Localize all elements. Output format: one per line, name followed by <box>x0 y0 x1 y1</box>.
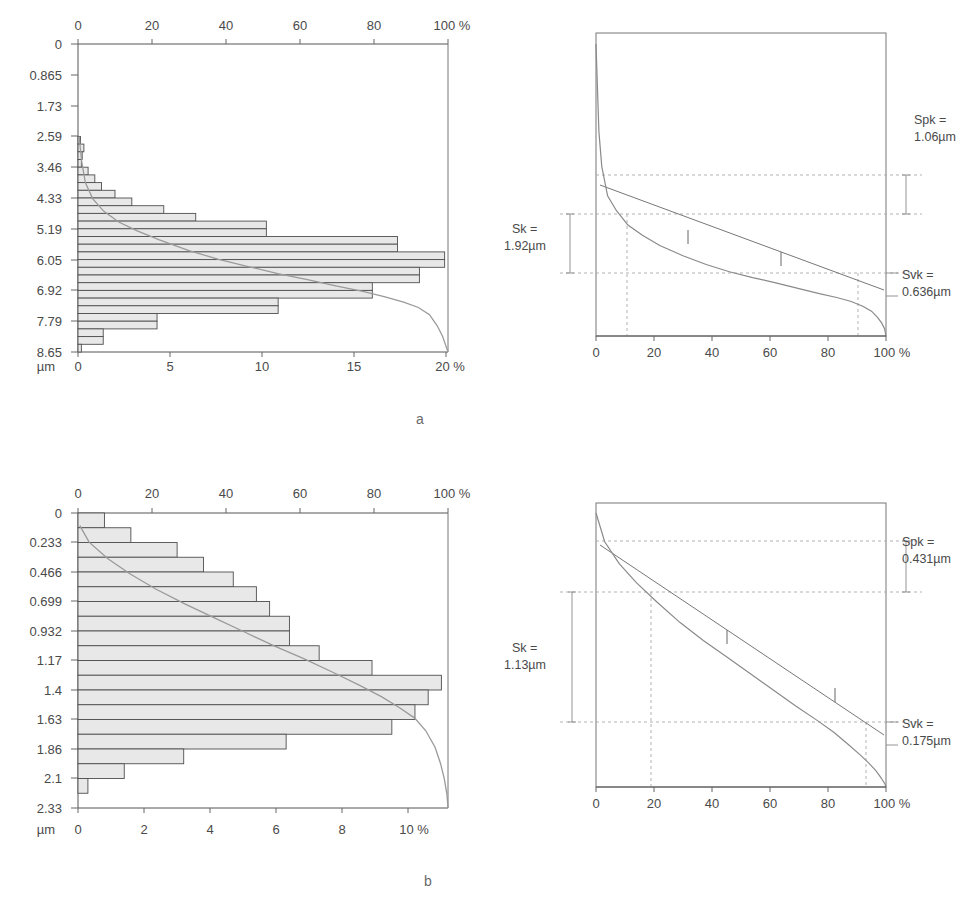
hist-a-y-tick-0: 0 <box>55 37 62 52</box>
abbott-a-frame <box>596 33 886 336</box>
abbott-b-frame <box>596 503 886 787</box>
histogram-bar <box>78 221 266 229</box>
hist-a-y-tick-0865: 0.865 <box>29 68 62 83</box>
histogram-bar <box>78 237 398 245</box>
abbott-a-chord <box>600 185 884 290</box>
histogram-bar <box>78 290 372 298</box>
abbott-b-sk-bracket <box>568 592 576 722</box>
abbott-b-sk-label-line2: 1.13µm <box>504 658 546 672</box>
hist-a-bot-tick-15: 15 <box>347 359 361 374</box>
hist-b-y-tick-117: 1.17 <box>37 653 62 668</box>
abbott-b-x-tick-0: 0 <box>592 796 599 811</box>
abbott-b-x-tick-60: 60 <box>763 796 777 811</box>
abbott-a-spk-label-line1: Spk = <box>914 113 946 127</box>
histogram-bar <box>78 175 95 183</box>
abbott-a-curve-markers <box>688 230 781 266</box>
abbott-a-sk-bracket <box>566 214 574 273</box>
hist-a-y-tick-346: 3.46 <box>37 160 62 175</box>
hist-b-y-tick-233: 2.33 <box>37 801 62 816</box>
abbott-a-x-tick-60: 60 <box>763 345 777 360</box>
hist-b-top-tick-100: 100 % <box>434 486 471 501</box>
hist-a-unit-label: µm <box>37 359 55 374</box>
histogram-bar <box>78 602 270 617</box>
hist-b-y-tick-14: 1.4 <box>44 683 62 698</box>
abbott-b-x-tick-100: 100 % <box>874 796 911 811</box>
hist-a-top-tick-40: 40 <box>219 18 233 33</box>
abbott-b-spk-label-line2: 0.431µm <box>902 552 951 566</box>
histogram-bar <box>78 260 445 268</box>
hist-b-bot-tick-8: 8 <box>338 822 345 837</box>
abbott-a-sk-label-line2: 1.92µm <box>504 239 546 253</box>
abbott-a-sk-label-line1: Sk = <box>512 222 537 236</box>
hist-a-y-tick-173: 1.73 <box>37 99 62 114</box>
abbott-a-spk-label-line2: 1.06µm <box>914 130 956 144</box>
figure-container: 0 20 40 60 80 100 % 0 0.865 1.73 2.59 <box>0 0 974 918</box>
abbott-a-svk-leader <box>886 273 898 296</box>
histogram-bar <box>78 160 81 168</box>
hist-a-bot-tick-5: 5 <box>166 359 173 374</box>
hist-b-top-tick-40: 40 <box>219 486 233 501</box>
abbott-b-spk-label-line1: Spk = <box>902 535 934 549</box>
histogram-bar <box>78 244 398 252</box>
hist-a-y-tick-692: 6.92 <box>37 283 62 298</box>
abbott-a-x-tick-100: 100 % <box>874 345 911 360</box>
hist-b-y-tick-0233: 0.233 <box>29 535 62 550</box>
abbott-a-x-tick-80: 80 <box>821 345 835 360</box>
histogram-bar <box>78 646 319 661</box>
abbott-b-curve <box>596 513 886 787</box>
histogram-bar <box>78 690 428 705</box>
histogram-bar <box>78 306 278 314</box>
histogram-bar <box>78 344 81 352</box>
hist-a-bars <box>78 136 445 352</box>
histogram-bar <box>78 213 196 221</box>
subfigure-label-a: a <box>416 411 424 427</box>
chart-hist-a: 0 20 40 60 80 100 % 0 0.865 1.73 2.59 <box>29 18 470 374</box>
abbott-b-x-tick-40: 40 <box>705 796 719 811</box>
histogram-bar <box>78 513 104 528</box>
histogram-bar <box>78 183 102 191</box>
hist-a-bottom-ticks <box>78 352 446 357</box>
histogram-bar <box>78 705 415 720</box>
abbott-a-svk-label-line2: 0.636µm <box>902 285 951 299</box>
abbott-a-x-tick-20: 20 <box>647 345 661 360</box>
hist-b-bot-tick-0: 0 <box>74 822 81 837</box>
abbott-b-chord <box>600 545 884 735</box>
hist-b-y-tick-0932: 0.932 <box>29 624 62 639</box>
histogram-bar <box>78 557 204 572</box>
hist-b-top-ticks <box>78 508 448 513</box>
abbott-b-svk-leader <box>886 722 898 745</box>
hist-b-y-tick-0699: 0.699 <box>29 594 62 609</box>
hist-b-y-tick-163: 1.63 <box>37 712 62 727</box>
abbott-b-x-ticks <box>596 787 886 792</box>
abbott-a-x-tick-0: 0 <box>592 345 599 360</box>
histogram-bar <box>78 587 256 602</box>
abbott-b-sk-label-line1: Sk = <box>512 641 537 655</box>
hist-a-bot-tick-20: 20 % <box>435 359 465 374</box>
chart-abbott-a: 0 20 40 60 80 100 % Spk = 1.06µm Sk = 1.… <box>504 33 956 360</box>
histogram-bar <box>78 572 233 587</box>
abbott-b-x-tick-80: 80 <box>821 796 835 811</box>
histogram-bar <box>78 190 115 198</box>
histogram-bar <box>78 298 278 306</box>
hist-b-bot-tick-6: 6 <box>272 822 279 837</box>
abbott-a-x-tick-40: 40 <box>705 345 719 360</box>
hist-a-bot-tick-10: 10 <box>255 359 269 374</box>
hist-b-y-tick-0: 0 <box>55 506 62 521</box>
hist-a-top-tick-0: 0 <box>74 18 81 33</box>
chart-hist-b: 0 20 40 60 80 100 % 0 0.233 0.466 0.699 … <box>29 486 470 837</box>
subfigure-label-b: b <box>424 873 432 889</box>
histogram-bar <box>78 275 419 283</box>
histogram-bar <box>78 749 184 764</box>
abbott-a-spk-bracket <box>902 175 910 214</box>
hist-b-bars <box>78 513 441 793</box>
hist-a-y-tick-779: 7.79 <box>37 314 62 329</box>
hist-a-y-tick-605: 6.05 <box>37 253 62 268</box>
hist-a-y-tick-259: 2.59 <box>37 129 62 144</box>
hist-b-top-tick-20: 20 <box>145 486 159 501</box>
hist-a-y-tick-433: 4.33 <box>37 191 62 206</box>
hist-b-y-ticks <box>71 513 78 808</box>
abbott-b-x-tick-20: 20 <box>647 796 661 811</box>
abbott-b-svk-label-line2: 0.175µm <box>902 734 951 748</box>
hist-a-top-tick-60: 60 <box>293 18 307 33</box>
hist-b-y-tick-186: 1.86 <box>37 742 62 757</box>
